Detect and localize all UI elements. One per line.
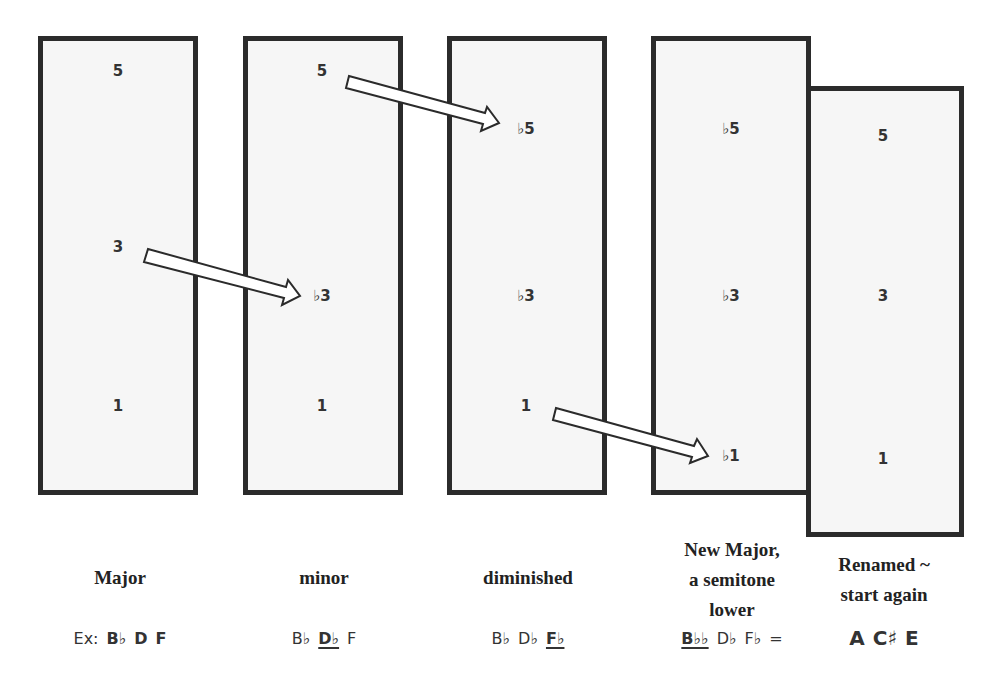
major-chord-box: [38, 36, 198, 495]
minor-third: ♭3: [313, 287, 331, 305]
major-root: 1: [113, 397, 123, 415]
major-label-line: Major: [94, 567, 146, 588]
note-b-flat: B♭: [292, 629, 311, 648]
minor-notes: B♭D♭F: [292, 629, 357, 648]
note-d: D: [134, 629, 147, 648]
renamed-label: Renamed ~ start again: [838, 550, 930, 610]
note-f: F: [156, 629, 167, 648]
new-major-notes: B♭♭D♭F♭=: [681, 629, 782, 648]
diminished-third: ♭3: [517, 287, 535, 305]
diminished-notes: B♭D♭F♭: [492, 629, 565, 648]
equals-sign: =: [769, 629, 782, 648]
diminished-label-line: diminished: [483, 567, 573, 588]
note-d-flat: D♭: [717, 629, 737, 648]
note-f: F: [347, 629, 356, 648]
new-major-fifth: ♭5: [722, 120, 740, 138]
diminished-fifth: ♭5: [517, 120, 535, 138]
diminished-root: 1: [521, 397, 531, 415]
renamed-third: 3: [878, 287, 888, 305]
note-a: A: [849, 626, 864, 650]
renamed-notes: AC♯E: [849, 626, 919, 650]
minor-root: 1: [317, 397, 327, 415]
minor-fifth: 5: [317, 62, 327, 80]
major-label: Major: [94, 566, 146, 589]
note-b-flat: B♭: [492, 629, 511, 648]
note-b-double-flat-changed: B♭♭: [681, 629, 708, 648]
new-major-chord-box: [651, 36, 811, 495]
renamed-fifth: 5: [878, 127, 888, 145]
diminished-label: diminished: [483, 566, 573, 589]
note-f-flat: F♭: [745, 629, 762, 648]
note-d-flat-changed: D♭: [318, 629, 339, 648]
note-d-flat: D♭: [518, 629, 538, 648]
minor-label: minor: [299, 566, 349, 589]
minor-chord-box: [243, 36, 403, 495]
new-major-label-line-3: lower: [684, 595, 779, 625]
example-prefix: Ex:: [74, 629, 99, 648]
new-major-label-line-1: New Major,: [684, 535, 779, 565]
renamed-chord-box: [806, 86, 964, 537]
minor-label-line: minor: [299, 567, 349, 588]
diminished-chord-box: [447, 36, 607, 495]
major-third: 3: [113, 238, 123, 256]
note-b-flat: B♭: [107, 629, 127, 648]
new-major-third: ♭3: [722, 287, 740, 305]
major-fifth: 5: [113, 62, 123, 80]
renamed-label-line-1: Renamed ~: [838, 550, 930, 580]
renamed-root: 1: [878, 450, 888, 468]
note-e: E: [905, 626, 919, 650]
major-notes: Ex:B♭DF: [74, 629, 167, 648]
note-c-sharp: C♯: [873, 626, 897, 650]
new-major-label-line-2: a semitone: [684, 565, 779, 595]
renamed-label-line-2: start again: [838, 580, 930, 610]
note-f-flat-changed: F♭: [546, 629, 564, 648]
new-major-label: New Major, a semitone lower: [684, 535, 779, 625]
new-major-root: ♭1: [722, 447, 740, 465]
